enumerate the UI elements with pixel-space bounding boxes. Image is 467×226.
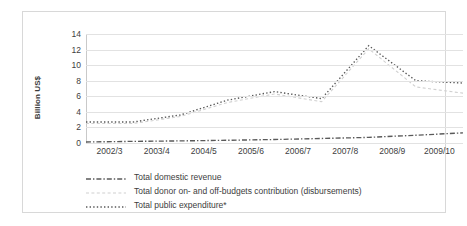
legend-line-icon bbox=[86, 171, 126, 183]
gridline bbox=[86, 34, 463, 35]
gridline bbox=[86, 143, 463, 144]
x-axis-tick: 2005/6 bbox=[238, 146, 264, 156]
legend-item[interactable]: Total donor on- and off-budgets contribu… bbox=[86, 184, 456, 198]
gridline bbox=[86, 112, 463, 113]
gridline bbox=[86, 65, 463, 66]
plot-area bbox=[86, 34, 463, 143]
y-axis-tick: 8 bbox=[55, 76, 81, 86]
x-axis-tick: 2002/3 bbox=[97, 146, 123, 156]
y-axis-tick: 10 bbox=[55, 60, 81, 70]
gridline bbox=[86, 50, 463, 51]
y-axis-tick: 12 bbox=[55, 45, 81, 55]
x-axis-tick: 2003/4 bbox=[144, 146, 170, 156]
y-axis-tick: 14 bbox=[55, 29, 81, 39]
legend-item[interactable]: Total domestic revenue bbox=[86, 170, 456, 184]
series-line bbox=[86, 133, 463, 142]
y-axis-tick: 2 bbox=[55, 122, 81, 132]
x-axis-tick: 2007/8 bbox=[332, 146, 358, 156]
x-axis-tick: 2006/7 bbox=[285, 146, 311, 156]
y-axis-title-text: Billion US$ bbox=[34, 75, 43, 118]
y-axis-tick-labels: 02468101214 bbox=[53, 34, 81, 143]
legend-label: Total public expenditure* bbox=[134, 200, 227, 210]
x-axis-tick: 2009/10 bbox=[424, 146, 455, 156]
series-line bbox=[86, 46, 463, 122]
legend-label: Total donor on- and off-budgets contribu… bbox=[134, 186, 362, 196]
y-axis-tick: 6 bbox=[55, 91, 81, 101]
x-axis-tick-labels: 2002/32003/42004/52005/62006/72007/82008… bbox=[86, 146, 463, 160]
gridline bbox=[86, 81, 463, 82]
legend-label: Total domestic revenue bbox=[134, 172, 221, 182]
x-axis-tick: 2008/9 bbox=[379, 146, 405, 156]
gridline bbox=[86, 127, 463, 128]
legend-item[interactable]: Total public expenditure* bbox=[86, 198, 456, 212]
y-axis-tick: 4 bbox=[55, 107, 81, 117]
legend-line-icon bbox=[86, 199, 126, 211]
gridline bbox=[86, 96, 463, 97]
y-axis-title: Billion US$ bbox=[31, 52, 45, 142]
chart-figure: Billion US$ 02468101214 2002/32003/42004… bbox=[22, 11, 446, 213]
y-axis-tick: 0 bbox=[55, 138, 81, 148]
x-axis-tick: 2004/5 bbox=[191, 146, 217, 156]
chart-legend: Total domestic revenueTotal donor on- an… bbox=[86, 170, 456, 212]
legend-line-icon bbox=[86, 185, 126, 197]
